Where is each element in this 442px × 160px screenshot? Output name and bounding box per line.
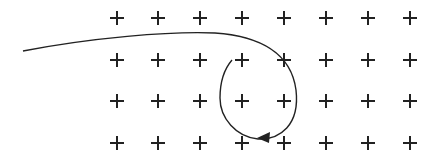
trajectory-svg: [0, 0, 442, 160]
direction-arrow-icon: [257, 132, 270, 143]
particle-trajectory: [23, 33, 297, 139]
magnetic-field-diagram: [0, 0, 442, 160]
